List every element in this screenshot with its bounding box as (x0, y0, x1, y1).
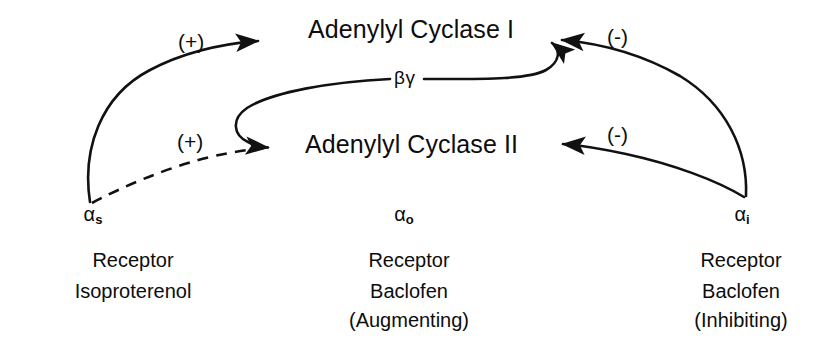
receptor-label-alpha-s: Receptor (92, 250, 173, 270)
edge-alphai-to-cyclase2 (563, 144, 744, 197)
edge-alphai-to-cyclase1 (562, 40, 746, 196)
subunit-label-alpha-i: αi (734, 204, 749, 226)
edge-betagamma-to-cyclase1 (424, 43, 558, 79)
subunit-subscript-i: i (746, 212, 750, 227)
subunit-label-alpha-s: αs (84, 204, 103, 226)
subunit-subscript-s: s (95, 212, 102, 227)
node-label-beta-gamma: βγ (394, 68, 415, 87)
subunit-symbol-alpha-i: α (734, 203, 746, 225)
node-label-adenylyl-cyclase-1: Adenylyl Cyclase I (308, 17, 514, 42)
adenylyl-cyclase-signaling-diagram: Adenylyl Cyclase I Adenylyl Cyclase II β… (0, 0, 817, 347)
edge-alphas-to-cyclase2 (92, 148, 264, 203)
receptor-label-alpha-o: Receptor (368, 250, 449, 270)
sign-plus-to-cyclase-2: (+) (177, 131, 203, 152)
node-label-adenylyl-cyclase-2: Adenylyl Cyclase II (305, 132, 518, 157)
edge-alphas-to-cyclase1 (88, 41, 258, 202)
sign-minus-to-cyclase-1: (-) (607, 26, 628, 47)
subunit-symbol-alpha-s: α (84, 203, 96, 225)
sign-plus-to-cyclase-1: (+) (178, 31, 204, 52)
ligand-label-isoproterenol: Isoproterenol (75, 281, 192, 301)
ligand-label-baclofen-augmenting: Baclofen (370, 281, 448, 301)
subunit-symbol-alpha-o: α (394, 203, 406, 225)
ligand-mode-label-augmenting: (Augmenting) (349, 310, 469, 330)
sign-minus-to-cyclase-2: (-) (607, 124, 628, 145)
subunit-subscript-o: o (406, 212, 414, 227)
ligand-label-baclofen-inhibiting: Baclofen (702, 281, 780, 301)
receptor-label-alpha-i: Receptor (700, 250, 781, 270)
subunit-label-alpha-o: αo (394, 204, 414, 226)
ligand-mode-label-inhibiting: (Inhibiting) (694, 310, 787, 330)
